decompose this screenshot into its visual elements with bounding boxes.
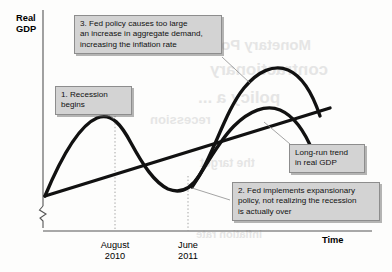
tick-label-june-2011: June 2011	[160, 240, 216, 262]
axis-break-icon	[40, 206, 47, 228]
y-axis-label: Real GDP	[16, 13, 44, 34]
callout-fed-policy-too-large: 3. Fed policy causes too large an increa…	[74, 15, 222, 54]
callout-long-run-trend: Long-run trend in real GDP	[289, 144, 365, 173]
tick-label-august-2010: August 2010	[85, 240, 145, 262]
callout-fed-implements: 2. Fed implements expansionary policy, n…	[232, 182, 380, 221]
leader-line-fed-policy-too-large	[222, 57, 250, 83]
leader-line-fed-implements	[192, 188, 230, 200]
callout-recession-begins: 1. Recession begins	[55, 86, 132, 115]
x-axis-label: Time	[322, 235, 344, 246]
figure-container: Monetary Policy contractionary policy a …	[0, 0, 392, 272]
